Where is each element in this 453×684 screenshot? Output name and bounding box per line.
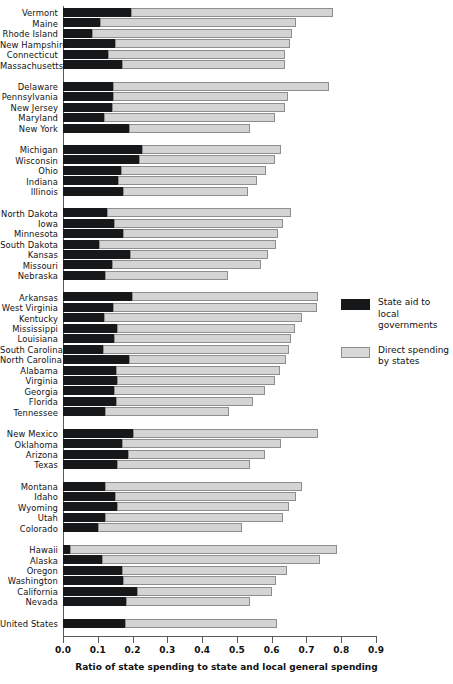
bar-segment-direct-spending — [115, 39, 290, 48]
state-label: Indiana — [0, 177, 58, 187]
bar-segment-state-aid — [63, 260, 112, 269]
bar-segment-direct-spending — [117, 376, 275, 385]
state-label: Illinois — [0, 187, 58, 197]
bar-segment-state-aid — [63, 155, 139, 164]
bar-segment-direct-spending — [114, 334, 291, 343]
state-label: California — [0, 587, 58, 597]
state-label: South Dakota — [0, 240, 58, 250]
bar-segment-direct-spending — [105, 271, 228, 280]
bar-segment-direct-spending — [128, 450, 265, 459]
bar-segment-state-aid — [63, 292, 132, 301]
state-label: New Jersey — [0, 103, 58, 113]
bar-segment-state-aid — [63, 271, 105, 280]
state-label: Hawaii — [0, 545, 58, 555]
bar-segment-direct-spending — [114, 386, 265, 395]
state-label: Tennessee — [0, 408, 58, 418]
bar-segment-state-aid — [63, 187, 123, 196]
bar-segment-direct-spending — [126, 597, 250, 606]
bar-segment-direct-spending — [125, 619, 277, 628]
bar-segment-direct-spending — [117, 460, 251, 469]
state-label: Montana — [0, 482, 58, 492]
bar-segment-direct-spending — [108, 50, 285, 59]
bar-segment-state-aid — [63, 324, 117, 333]
bar-segment-state-aid — [63, 566, 122, 575]
bar-segment-state-aid — [63, 619, 125, 628]
bar-segment-direct-spending — [105, 482, 302, 491]
bar-segment-state-aid — [63, 523, 98, 532]
bar-segment-state-aid — [63, 103, 112, 112]
bar-segment-direct-spending — [122, 439, 281, 448]
bar-segment-direct-spending — [129, 355, 286, 364]
bar-segment-state-aid — [63, 492, 115, 501]
bar-segment-direct-spending — [129, 124, 250, 133]
legend: State aid to local governments Direct sp… — [341, 297, 453, 381]
bar-segment-direct-spending — [142, 145, 281, 154]
state-label: United States — [0, 619, 58, 629]
state-label: Vermont — [0, 8, 58, 18]
state-label: Alaska — [0, 556, 58, 566]
bar-segment-state-aid — [63, 502, 117, 511]
legend-label-direct-spending: Direct spending by states — [378, 345, 453, 368]
x-tick-label: 0.1 — [83, 645, 113, 655]
bar-segment-direct-spending — [131, 8, 333, 17]
bar-segment-state-aid — [63, 334, 114, 343]
x-tick — [341, 637, 342, 643]
bar-segment-direct-spending — [104, 113, 275, 122]
state-label: Arkansas — [0, 293, 58, 303]
bar-segment-state-aid — [63, 376, 117, 385]
state-label: South Carolina — [0, 345, 58, 355]
bar-segment-direct-spending — [118, 176, 257, 185]
state-label: Michigan — [0, 145, 58, 155]
state-label: Wisconsin — [0, 156, 58, 166]
state-label: Idaho — [0, 492, 58, 502]
state-label: New York — [0, 124, 58, 134]
x-tick — [272, 637, 273, 643]
x-tick-label: 0.2 — [118, 645, 148, 655]
bar-segment-direct-spending — [92, 29, 292, 38]
bar-segment-direct-spending — [116, 366, 280, 375]
bar-segment-state-aid — [63, 386, 114, 395]
bar-segment-direct-spending — [107, 208, 291, 217]
bar-segment-direct-spending — [70, 545, 337, 554]
bar-segment-state-aid — [63, 303, 113, 312]
x-axis-title: Ratio of state spending to state and loc… — [0, 662, 453, 672]
bar-segment-state-aid — [63, 345, 103, 354]
bar-segment-state-aid — [63, 250, 130, 259]
bar-segment-direct-spending — [123, 229, 278, 238]
bar-segment-state-aid — [63, 50, 108, 59]
bar-segment-state-aid — [63, 429, 133, 438]
state-label: Kansas — [0, 250, 58, 260]
x-tick — [376, 637, 377, 643]
bar-segment-state-aid — [63, 587, 137, 596]
bar-segment-state-aid — [63, 166, 121, 175]
x-tick — [237, 637, 238, 643]
bar-segment-state-aid — [63, 439, 122, 448]
x-tick-label: 0.6 — [257, 645, 287, 655]
bar-segment-state-aid — [63, 82, 113, 91]
state-label: Utah — [0, 513, 58, 523]
state-label: Mississippi — [0, 324, 58, 334]
legend-swatch-direct-spending — [341, 347, 370, 358]
bar-segment-direct-spending — [117, 324, 295, 333]
state-label: Oregon — [0, 566, 58, 576]
bar-segment-direct-spending — [99, 240, 276, 249]
bar-segment-state-aid — [63, 229, 123, 238]
bar-segment-state-aid — [63, 60, 122, 69]
state-label: Rhode Island — [0, 29, 58, 39]
state-label: West Virginia — [0, 303, 58, 313]
x-tick — [133, 637, 134, 643]
bar-segment-state-aid — [63, 208, 107, 217]
bar-segment-direct-spending — [98, 523, 242, 532]
x-tick-label: 0.0 — [48, 645, 78, 655]
x-tick — [202, 637, 203, 643]
bar-segment-direct-spending — [113, 82, 329, 91]
bar-segment-state-aid — [63, 576, 123, 585]
bar-segment-state-aid — [63, 8, 131, 17]
bar-segment-direct-spending — [105, 513, 284, 522]
bar-segment-state-aid — [63, 407, 105, 416]
state-label: Louisiana — [0, 334, 58, 344]
bar-segment-state-aid — [63, 145, 142, 154]
bar-segment-direct-spending — [105, 407, 228, 416]
state-label: Iowa — [0, 219, 58, 229]
bar-segment-state-aid — [63, 18, 100, 27]
